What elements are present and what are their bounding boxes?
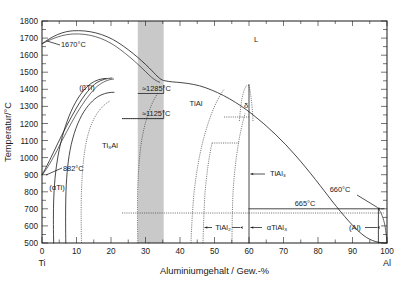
phase-label-delta: δ	[244, 101, 248, 110]
x-axis-title: Aluminiumgehalt / Gew.-%	[160, 266, 269, 276]
phase-label-al: (Al)	[349, 223, 361, 232]
x-tick-80: 80	[313, 247, 323, 256]
x-axis-left-endpoint-label: Ti	[38, 258, 45, 268]
x-tick-20: 20	[106, 247, 116, 256]
temp-annotation-1125: ≈1125°C	[142, 109, 171, 118]
ti-al-phase-diagram-svg: 1800 1700 1600 1500 1400 1300 1200 1100 …	[0, 0, 410, 282]
temp-annotation-1670: 1670°C	[61, 40, 86, 49]
y-tick-1400: 1400	[20, 85, 39, 94]
y-tick-1500: 1500	[20, 68, 39, 77]
x-tick-50: 50	[210, 247, 220, 256]
temp-annotation-882: 882°C	[63, 164, 84, 173]
gray-two-phase-band	[138, 21, 164, 243]
y-tick-labels: 1800 1700 1600 1500 1400 1300 1200 1100 …	[20, 17, 39, 248]
x-tick-90: 90	[348, 247, 358, 256]
phase-label-tial: TiAl	[190, 99, 203, 108]
x-tick-10: 10	[72, 247, 82, 256]
y-tick-1800: 1800	[20, 17, 39, 26]
phase-diagram-figure: 1800 1700 1600 1500 1400 1300 1200 1100 …	[0, 0, 410, 282]
x-tick-30: 30	[141, 247, 151, 256]
x-tick-100: 100	[380, 247, 394, 256]
y-tick-600: 600	[24, 222, 38, 231]
phase-label-liquid: L	[254, 35, 258, 44]
x-tick-70: 70	[279, 247, 289, 256]
temp-annotation-665: 665°C	[295, 199, 316, 208]
phase-label-tial2: TiAl₂	[215, 223, 231, 232]
phase-label-ti3al: Ti₃Al	[102, 141, 118, 150]
y-tick-1300: 1300	[20, 102, 39, 111]
x-tick-60: 60	[244, 247, 254, 256]
temp-annotation-660: 660°C	[330, 185, 351, 194]
y-tick-1200: 1200	[20, 120, 39, 129]
temp-annotation-1285: ≈1285°C	[142, 84, 171, 93]
x-tick-40: 40	[175, 247, 185, 256]
plot-background	[42, 21, 387, 243]
y-tick-700: 700	[24, 205, 38, 214]
phase-label-beta-ti: (βTi)	[79, 83, 95, 92]
y-tick-500: 500	[24, 239, 38, 248]
y-tick-900: 900	[24, 171, 38, 180]
y-tick-1600: 1600	[20, 51, 39, 60]
phase-label-tial3: TiAl₃	[270, 169, 286, 178]
y-tick-1000: 1000	[20, 154, 39, 163]
x-tick-0: 0	[40, 247, 45, 256]
y-tick-1700: 1700	[20, 34, 39, 43]
x-axis-right-endpoint-label: Al	[383, 258, 391, 268]
y-axis-title: Temperatur/°C	[3, 102, 13, 162]
y-tick-800: 800	[24, 188, 38, 197]
y-tick-1100: 1100	[20, 137, 38, 146]
phase-label-alpha-ti: (αTi)	[49, 183, 65, 192]
phase-label-alpha-tial3: αTiAl₃	[267, 223, 287, 232]
x-tick-labels: 0 10 20 30 40 50 60 70 80 90 100	[40, 247, 395, 256]
